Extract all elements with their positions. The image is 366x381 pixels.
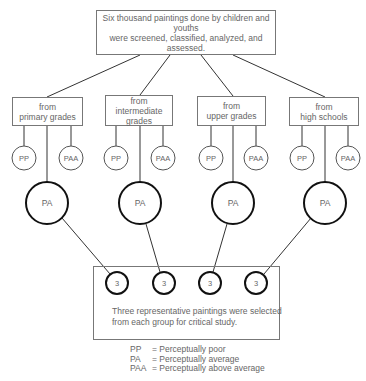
selected-count-label: 3 <box>162 279 166 288</box>
bottom-box-note: Three representative paintings were sele… <box>112 306 282 328</box>
paa-label: PAA <box>341 154 355 163</box>
connector-top-to-intermediate <box>140 55 170 95</box>
legend: PP = Perceptually poor PA = Perceptually… <box>130 345 265 374</box>
connector-top-to-primary <box>47 55 140 97</box>
group-box-line-2: intermediate <box>116 106 163 116</box>
top-box-line-2: were screened, classified, analyzed, and… <box>97 33 275 53</box>
group-box-line-2: high schools <box>300 112 347 122</box>
top-box-line-1: Six thousand paintings done by children … <box>97 13 275 33</box>
group-box-intermediate: from intermediate grades <box>105 95 173 126</box>
pa-label: PA <box>228 198 239 208</box>
paa-label: PAA <box>156 154 170 163</box>
group-box-primary: from primary grades <box>12 97 83 126</box>
pp-label: PP <box>111 154 121 163</box>
group-box-line-2: upper grades <box>206 111 256 121</box>
group-box-line-1: from <box>300 102 347 112</box>
pp-label: PP <box>206 154 216 163</box>
legend-definition: = Perceptually above average <box>152 364 265 374</box>
connector-top-to-high <box>233 55 325 97</box>
bottom-box-line-1: Three representative paintings were sele… <box>112 306 282 317</box>
connector-top-to-upper <box>201 55 233 96</box>
selected-count-label: 3 <box>115 279 119 288</box>
paa-label: PAA <box>249 154 263 163</box>
group-box-upper: from upper grades <box>197 96 266 126</box>
top-box: Six thousand paintings done by children … <box>96 10 276 55</box>
selected-count-label: 3 <box>208 279 212 288</box>
pa-label: PA <box>42 198 53 208</box>
pp-label: PP <box>297 154 307 163</box>
legend-row: PAA = Perceptually above average <box>130 364 265 374</box>
group-box-line-1: from <box>19 102 76 112</box>
group-box-line-1: from <box>116 96 163 106</box>
group-box-line-3: grades <box>116 116 163 126</box>
selected-count-label: 3 <box>254 279 258 288</box>
bottom-box-line-2: from each group for critical study. <box>112 317 282 328</box>
pa-label: PA <box>320 198 331 208</box>
group-box-high: from high schools <box>289 97 359 126</box>
paa-label: PAA <box>64 154 78 163</box>
pa-label: PA <box>135 198 146 208</box>
group-box-line-2: primary grades <box>19 112 76 122</box>
legend-abbr: PAA <box>130 364 152 374</box>
group-box-line-1: from <box>206 101 256 111</box>
pp-label: PP <box>19 154 29 163</box>
